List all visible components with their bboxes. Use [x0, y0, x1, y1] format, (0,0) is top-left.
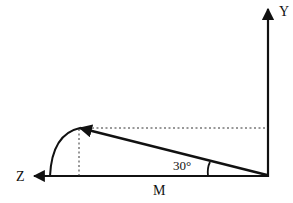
y-axis-label: Y [279, 4, 289, 19]
z-axis-label: Z [16, 169, 25, 184]
rotation-arc [50, 128, 80, 176]
angle-arc [208, 162, 210, 176]
vector-diagram: Y Z 30° M [0, 0, 293, 203]
vector-label: M [153, 183, 166, 198]
angle-label: 30° [173, 158, 191, 173]
